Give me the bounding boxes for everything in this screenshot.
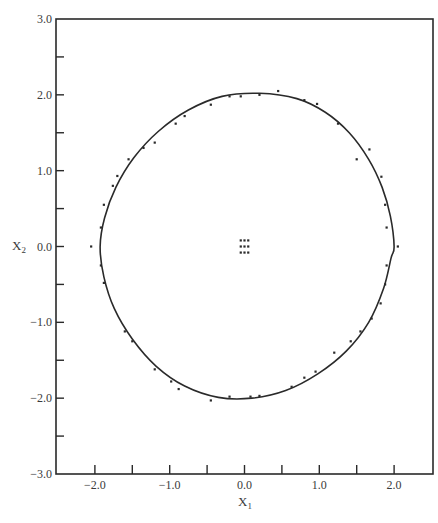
data-point (291, 386, 293, 388)
data-point (127, 158, 129, 160)
y-tick-label: −1.0 (30, 315, 52, 329)
data-point (170, 380, 172, 382)
y-tick-label: 1.0 (37, 164, 52, 178)
data-point (258, 94, 260, 96)
data-point (210, 399, 212, 401)
data-point (397, 245, 399, 247)
x-axis-label: X1 (238, 494, 252, 511)
data-point (359, 330, 361, 332)
data-point (131, 340, 133, 342)
data-point (258, 395, 260, 397)
limit-cycle-curve (100, 93, 394, 399)
phase-plot: −2.0−1.00.01.02.0 3.02.01.00.0−1.0−2.0−3… (0, 0, 438, 523)
data-point (380, 176, 382, 178)
data-point (240, 245, 242, 247)
data-point (228, 396, 230, 398)
data-point (228, 95, 230, 97)
data-point (240, 251, 242, 253)
data-point (175, 123, 177, 125)
data-point (116, 175, 118, 177)
x-tick-label: 2.0 (387, 478, 402, 492)
x-axis-ticks: −2.0−1.00.01.02.0 (84, 465, 402, 492)
data-point (277, 90, 279, 92)
data-point (240, 95, 242, 97)
data-point (100, 264, 102, 266)
data-point (303, 377, 305, 379)
data-point (247, 245, 249, 247)
data-point (247, 251, 249, 253)
data-point (142, 147, 144, 149)
data-point (154, 142, 156, 144)
limit-cycle-path (100, 93, 394, 399)
data-point (210, 104, 212, 106)
y-tick-label: 2.0 (37, 88, 52, 102)
data-point (350, 340, 352, 342)
data-point (368, 148, 370, 150)
y-tick-label: −2.0 (30, 391, 52, 405)
y-tick-label: −3.0 (30, 467, 52, 481)
data-point (384, 283, 386, 285)
data-point (386, 226, 388, 228)
x-tick-label: 1.0 (312, 478, 327, 492)
data-point (386, 264, 388, 266)
data-point (384, 204, 386, 206)
data-point (243, 251, 245, 253)
data-point (371, 317, 373, 319)
x-tick-label: 0.0 (237, 478, 252, 492)
y-tick-label: 3.0 (37, 12, 52, 26)
data-point (243, 239, 245, 241)
data-point (124, 330, 126, 332)
data-point (356, 158, 358, 160)
data-point (249, 396, 251, 398)
data-point (316, 103, 318, 105)
x-tick-label: −2.0 (84, 478, 106, 492)
data-point (154, 368, 156, 370)
data-point (240, 239, 242, 241)
data-point (337, 123, 339, 125)
data-point (178, 388, 180, 390)
x-tick-label: −1.0 (159, 478, 181, 492)
y-axis-ticks: 3.02.01.00.0−1.0−2.0−3.0 (30, 12, 64, 481)
data-point (333, 352, 335, 354)
data-point (112, 185, 114, 187)
data-point (303, 99, 305, 101)
data-point (90, 245, 92, 247)
data-point (103, 282, 105, 284)
data-point (100, 226, 102, 228)
y-tick-label: 0.0 (37, 240, 52, 254)
data-point (247, 239, 249, 241)
data-point (380, 302, 382, 304)
data-point (314, 371, 316, 373)
data-point (243, 245, 245, 247)
data-point (103, 204, 105, 206)
data-point (184, 115, 186, 117)
y-axis-label: X2 (12, 238, 26, 255)
